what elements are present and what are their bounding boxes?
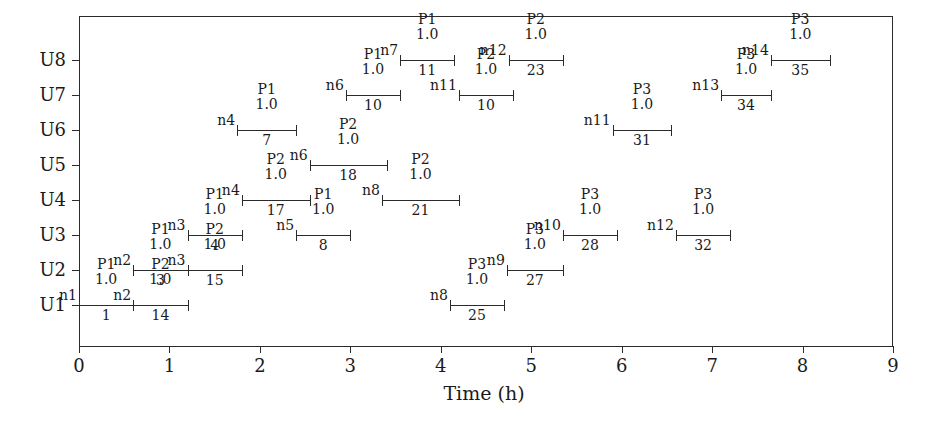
task-process-name: P2 — [339, 116, 357, 132]
task-node-label: n12 — [480, 43, 507, 58]
task-end-cap — [454, 55, 455, 66]
x-axis-right-cap — [892, 332, 893, 347]
task-node-label: n5 — [276, 218, 294, 233]
task-process-name: P2 — [527, 11, 545, 27]
task-id-label: 4 — [188, 238, 242, 253]
x-tick-label: 0 — [59, 355, 99, 377]
task-id-label: 1 — [79, 308, 133, 323]
task-end-cap — [242, 230, 243, 241]
task-node-label: n6 — [326, 78, 344, 93]
y-tick-label-u2: U2 — [18, 260, 66, 280]
task-value: 1.0 — [204, 201, 226, 217]
task-duration-line — [400, 60, 454, 61]
task-node-label: n1 — [59, 288, 77, 303]
task-duration-line — [133, 305, 187, 306]
task-duration-line — [237, 130, 296, 131]
task-duration-line — [133, 270, 187, 271]
y-tick-label-u5: U5 — [18, 155, 66, 175]
task-process-label: P31.0 — [563, 187, 617, 217]
task-value: 1.0 — [337, 131, 359, 147]
task-end-cap — [296, 125, 297, 136]
task-end-cap — [563, 55, 564, 66]
task-node-label: n4 — [222, 183, 240, 198]
task-id-label: 31 — [613, 133, 672, 148]
task-value: 1.0 — [475, 61, 497, 77]
y-tick-label-u3: U3 — [18, 225, 66, 245]
task-process-label: P31.0 — [676, 187, 730, 217]
task-duration-line — [79, 305, 133, 306]
task-duration-line — [507, 270, 563, 271]
task-id-label: 35 — [771, 63, 830, 78]
task-duration-line — [382, 200, 459, 201]
y-tick — [72, 200, 80, 201]
task-end-cap — [617, 230, 618, 241]
task-value: 1.0 — [265, 166, 287, 182]
task-id-label: 25 — [450, 308, 504, 323]
task-process-name: P1 — [418, 11, 436, 27]
task-duration-line — [563, 235, 617, 236]
task-process-name: P3 — [791, 11, 809, 27]
task-id-label: 34 — [721, 98, 771, 113]
task-duration-line — [346, 95, 400, 96]
task-id-label: 32 — [676, 238, 730, 253]
y-tick — [72, 60, 80, 61]
task-id-label: 28 — [563, 238, 617, 253]
x-tick-label: 6 — [602, 355, 642, 377]
task-node-label: n4 — [217, 113, 235, 128]
task-id-label: 14 — [133, 308, 187, 323]
y-tick-label-u4: U4 — [18, 190, 66, 210]
task-id-label: 17 — [242, 203, 310, 218]
y-tick-label-u8: U8 — [18, 50, 66, 70]
task-process-label: P11.0 — [237, 82, 296, 112]
task-end-cap — [310, 195, 311, 206]
x-tick-label: 9 — [873, 355, 913, 377]
task-node-label: n13 — [692, 78, 719, 93]
task-node-label: n9 — [487, 253, 505, 268]
task-value: 1.0 — [466, 271, 488, 287]
task-duration-line — [188, 270, 242, 271]
task-end-cap — [730, 230, 731, 241]
task-value: 1.0 — [525, 26, 547, 42]
x-tick-label: 2 — [240, 355, 280, 377]
gantt-chart: U1U2U3U4U5U6U7U8 0123456789 n1P11.01n2P2… — [0, 0, 932, 424]
task-id-label: 10 — [459, 98, 513, 113]
y-tick — [72, 95, 80, 96]
task-id-label: 18 — [310, 168, 387, 183]
task-value: 1.0 — [256, 96, 278, 112]
task-node-label: n11 — [584, 113, 611, 128]
task-node-label: n7 — [380, 43, 398, 58]
task-process-name: P1 — [257, 81, 275, 97]
task-value: 1.0 — [149, 236, 171, 252]
task-process-label: P21.0 — [509, 12, 563, 42]
y-tick-label-u7: U7 — [18, 85, 66, 105]
task-value: 1.0 — [312, 201, 334, 217]
task-value: 1.0 — [95, 271, 117, 287]
x-tick-label: 4 — [421, 355, 461, 377]
task-duration-line — [242, 200, 310, 201]
x-tick — [260, 346, 261, 353]
task-process-name: P3 — [633, 81, 651, 97]
task-duration-line — [450, 305, 504, 306]
y-tick — [72, 130, 80, 131]
task-id-label: 7 — [237, 133, 296, 148]
task-value: 1.0 — [631, 96, 653, 112]
task-end-cap — [350, 230, 351, 241]
task-end-cap — [242, 265, 243, 276]
task-duration-line — [721, 95, 771, 96]
x-axis-title: Time (h) — [0, 382, 932, 404]
task-id-label: 27 — [507, 273, 563, 288]
task-end-cap — [387, 160, 388, 171]
x-tick — [441, 346, 442, 353]
task-value: 1.0 — [579, 201, 601, 217]
y-tick — [72, 165, 80, 166]
task-id-label: 21 — [382, 203, 459, 218]
y-tick — [72, 235, 80, 236]
task-process-label: P31.0 — [771, 12, 830, 42]
task-process-name: P2 — [267, 151, 285, 167]
task-end-cap — [513, 90, 514, 101]
task-process-name: P3 — [468, 256, 486, 272]
task-value: 1.0 — [692, 201, 714, 217]
x-tick-label: 1 — [149, 355, 189, 377]
task-id-label: 23 — [509, 63, 563, 78]
x-tick — [803, 346, 804, 353]
